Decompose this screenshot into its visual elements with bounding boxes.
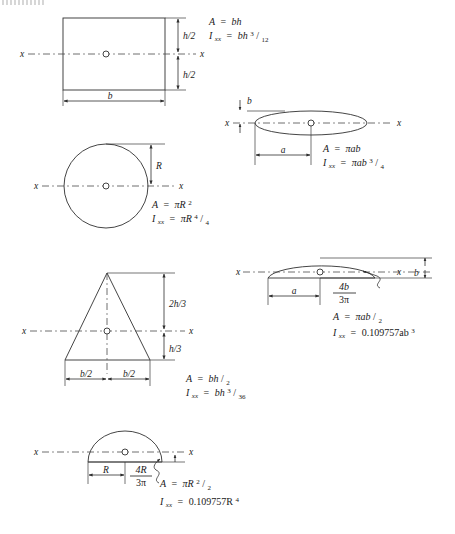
- circle-axis-label-right: x: [178, 181, 184, 191]
- half-ellipse-outline: [268, 266, 375, 278]
- triangle-axis-label-left: x: [21, 326, 27, 336]
- triangle-dim-2h3-label: 2h/3: [169, 299, 186, 309]
- semicircle-centroid: [122, 449, 128, 455]
- scan-artifact: [2, 0, 46, 5]
- half-ellipse-formula-1: A = πab / 2: [332, 311, 382, 325]
- half-ellipse-dim-a-label: a: [292, 286, 297, 296]
- triangle-dim-h3-label: h/3: [169, 344, 181, 354]
- figure-sheet: x x h/2 h/2 b A = bh: [0, 0, 455, 534]
- half-ellipse-centroid-leader: [363, 271, 380, 288]
- figure-semicircle: x x R 4R 3π A = πR 2: [33, 431, 239, 509]
- ellipse-axis-label-right: x: [396, 118, 402, 128]
- rectangle-dim-h2-lower-label: h/2: [183, 70, 195, 80]
- half-ellipse-centroid-offset-denominator: 3π: [339, 294, 349, 305]
- figure-half-ellipse: x x b a 4b 3π A = πab: [235, 258, 432, 340]
- half-ellipse-centroid: [317, 269, 323, 275]
- semicircle-centroid-offset-numerator: 4R: [135, 464, 146, 475]
- rectangle-centroid: [103, 51, 109, 57]
- circle-dim-R-label: R: [155, 161, 162, 171]
- triangle-outline: [65, 273, 150, 360]
- ellipse-outline: [255, 111, 367, 135]
- circle-formula-2: I xx = πR 4 / 4: [151, 210, 210, 227]
- rectangle-dim-h2-upper-label: h/2: [183, 31, 195, 41]
- half-ellipse-axis-label-left: x: [235, 267, 241, 277]
- triangle-formula-2: I xx = bh 3 / 36: [185, 384, 246, 401]
- ellipse-formula-2: I xx = πab 3 / 4: [322, 154, 385, 171]
- semicircle-dim-R-label: R: [102, 465, 109, 475]
- semicircle-centroid-leader: [154, 459, 160, 483]
- triangle-centroid: [104, 328, 110, 334]
- circle-centroid: [103, 183, 109, 189]
- figure-triangle: x x 2h/3 h/3 b/2 b/2 A = bh: [21, 273, 246, 401]
- triangle-formula-1: A = bh / 2: [185, 373, 230, 387]
- rectangle-dim-b-label: b: [108, 91, 113, 101]
- ellipse-formula-1: A = πab: [322, 143, 361, 154]
- semicircle-formula-2: I xx = 0.109757R 4: [159, 496, 239, 510]
- triangle-axis-label-right: x: [188, 326, 194, 336]
- figure-ellipse: x x b a A = πab I xx =: [224, 96, 402, 171]
- rectangle-formula-2: I xx = bh 3 / 12: [208, 27, 269, 44]
- semicircle-formula-1: A = πR 2 / 2: [159, 475, 211, 492]
- rectangle-axis-label-left: x: [19, 49, 25, 59]
- half-ellipse-formula-area: A = πab / 2 I xx = 0.109757ab 3: [332, 311, 415, 340]
- semicircle-axis-label-left: x: [33, 447, 39, 457]
- circle-axis-label-left: x: [33, 181, 39, 191]
- circle-formula-1: A = πR 2: [151, 199, 192, 211]
- ellipse-dim-a-label: a: [281, 145, 286, 155]
- half-ellipse-dim-b-label: b: [414, 268, 419, 278]
- semicircle-outline: [88, 431, 162, 462]
- ellipse-centroid: [308, 120, 314, 126]
- half-ellipse-formula-2: I xx = 0.109757ab 3: [332, 327, 415, 341]
- circle-formula-area: A = πR 2 I xx = πR 4 / 4: [151, 199, 210, 227]
- section-properties-figure: x x h/2 h/2 b A = bh: [0, 0, 455, 534]
- triangle-dim-b2-left-label: b/2: [80, 369, 92, 379]
- semicircle-axis-label-right: x: [188, 447, 194, 457]
- semicircle-centroid-offset-denominator: 3π: [136, 477, 146, 488]
- half-ellipse-axis-label-right: x: [396, 267, 402, 277]
- triangle-dim-b2-right-label: b/2: [123, 369, 135, 379]
- figure-rectangle: x x h/2 h/2 b A = bh: [19, 16, 269, 106]
- half-ellipse-centroid-offset-numerator: 4b: [339, 281, 349, 292]
- ellipse-dim-b-label: b: [247, 96, 252, 106]
- rectangle-outline: [63, 18, 165, 90]
- circle-outline: [64, 144, 148, 228]
- figure-circle: x x R A = πR 2 I xx = πR 4: [33, 144, 210, 228]
- semicircle-formula-area: A = πR 2 / 2 I xx = 0.109757R 4: [159, 475, 239, 510]
- ellipse-axis-label-left: x: [224, 118, 230, 128]
- ellipse-formula-area: A = πab I xx = πab 3 / 4: [322, 143, 385, 171]
- rectangle-axis-label-right: x: [199, 49, 205, 59]
- rectangle-formula-area: A = bh I xx = bh 3 / 12: [208, 16, 269, 44]
- rectangle-formula-1: A = bh: [208, 16, 242, 27]
- triangle-formula-area: A = bh / 2 I xx = bh 3 / 36: [185, 373, 246, 401]
